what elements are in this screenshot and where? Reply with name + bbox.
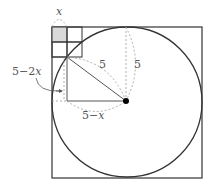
arrow-head-icon (59, 89, 63, 93)
pointer-curve (36, 78, 60, 91)
x-brace (52, 20, 67, 28)
shaded-square (52, 27, 67, 42)
label-radius-diag: 5 (99, 58, 106, 71)
grid-square (67, 27, 82, 42)
label-5-minus-2x: 5−2x (12, 65, 42, 78)
label-5-minus-x: 5−x (82, 109, 105, 122)
label-x: x (56, 5, 63, 18)
grid-square (52, 42, 67, 57)
geometry-diagram: x 5−2x 5 5 5−x (0, 0, 214, 187)
triangle-hypotenuse (67, 57, 126, 101)
center-point (123, 98, 129, 104)
label-radius-vert: 5 (134, 58, 141, 71)
